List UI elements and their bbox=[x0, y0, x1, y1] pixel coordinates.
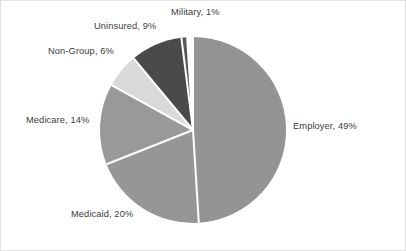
slice-label-uninsured: Uninsured, 9% bbox=[94, 21, 156, 31]
chart-plot-area: Employer, 49% Medicaid, 20% Medicare, 14… bbox=[1, 1, 406, 251]
slice-label-non-group: Non-Group, 6% bbox=[48, 46, 114, 56]
slice-label-employer: Employer, 49% bbox=[293, 121, 357, 131]
slice-label-military: Military, 1% bbox=[171, 7, 220, 17]
slice-label-medicaid: Medicaid, 20% bbox=[71, 209, 133, 219]
slice-label-medicare: Medicare, 14% bbox=[26, 115, 89, 125]
pie-slice-employer[interactable] bbox=[193, 37, 286, 223]
pie-chart-frame: Employer, 49% Medicaid, 20% Medicare, 14… bbox=[0, 0, 406, 251]
